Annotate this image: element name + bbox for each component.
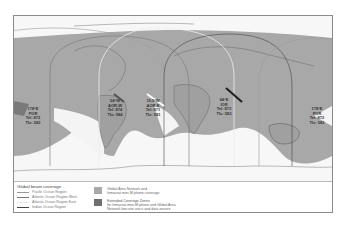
line-swatch [17,192,29,193]
legend: Global beam coverage Pacific Ocean Regio… [14,181,332,213]
world-map: 178°E POR Tel: 872 Tlx: 582 54°W AOR-W T… [14,16,332,181]
legend-zone-global-area: Global Area Network and Inmarsat mini-M … [94,187,160,195]
coverage-map-frame: 178°E POR Tel: 872 Tlx: 582 54°W AOR-W T… [13,15,333,213]
line-swatch [17,207,29,208]
color-swatch [94,187,102,194]
legend-title: Global beam coverage [17,184,61,189]
satellite-label-aor-w: 54°W AOR-W Tel: 874 Tlx: 584 [102,99,128,117]
satellite-label-ior: 64°E IOR Tel: 873 Tlx: 583 [211,98,237,116]
satellite-label-por-left: 178°E POR Tel: 872 Tlx: 582 [20,107,46,125]
legend-beam-ior: Indian Ocean Region [17,205,66,210]
satellite-label-aor-e: 15.5°W AOR-E Tel: 871 Tlx: 581 [138,99,168,117]
legend-zone-extended: Extended Coverage Zones for Inmarsat min… [94,199,176,211]
line-swatch [17,202,29,203]
satellite-label-por-right: 178°E POR Tel: 872 Tlx: 582 [304,107,330,125]
color-swatch [94,199,102,206]
line-swatch [17,197,29,198]
